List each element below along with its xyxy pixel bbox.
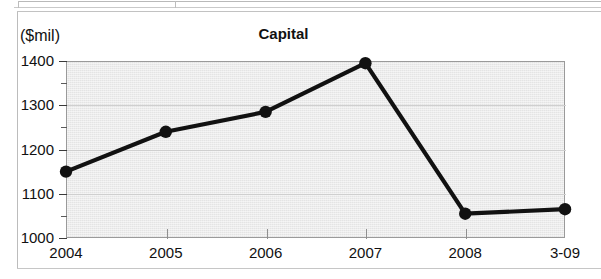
data-series-layer — [0, 0, 601, 279]
chart-plot: 1400130012001100100020042005200620072008… — [0, 0, 601, 279]
data-point-2004 — [60, 165, 72, 177]
series-line-capital — [66, 63, 565, 214]
data-point-2006 — [259, 106, 271, 118]
data-point-2007 — [359, 57, 371, 69]
data-point-2008 — [459, 208, 471, 220]
data-point-2005 — [160, 126, 172, 138]
data-point-3-09 — [559, 203, 571, 215]
